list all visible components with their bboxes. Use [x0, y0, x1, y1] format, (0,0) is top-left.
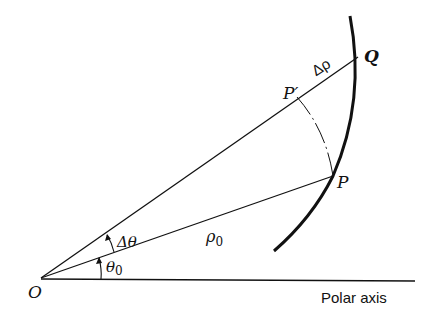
curve — [274, 16, 355, 251]
theta0-symbol: θ — [106, 258, 115, 276]
polar-axis-line — [41, 279, 415, 281]
label-q: Q — [364, 46, 379, 66]
ray-oq — [41, 57, 358, 278]
theta0-subscript: 0 — [115, 264, 123, 278]
label-polar-axis: Polar axis — [321, 289, 387, 306]
label-p-prime: P′ — [282, 83, 298, 103]
rho0-symbol: ρ — [205, 227, 216, 246]
label-theta0: θ0 — [106, 258, 123, 278]
arc-pprime-to-p — [297, 97, 333, 176]
label-delta-rho: Δρ — [308, 55, 333, 79]
polar-diagram: O Q P′ P Δρ ρ0 θ0 Δθ Polar axis — [0, 0, 439, 326]
rho0-subscript: 0 — [215, 235, 223, 249]
label-rho0: ρ0 — [205, 227, 223, 249]
label-delta-theta: Δθ — [116, 233, 137, 251]
label-p: P — [336, 172, 349, 192]
ray-op — [41, 176, 333, 278]
label-origin: O — [28, 282, 42, 302]
